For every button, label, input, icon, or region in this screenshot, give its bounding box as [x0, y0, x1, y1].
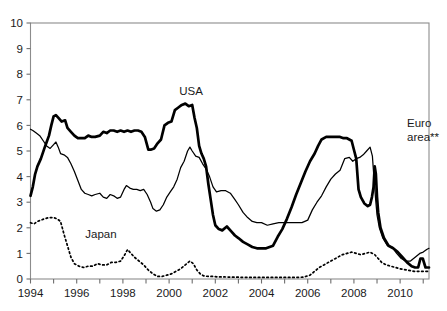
- y-axis-tick-label: 2: [17, 222, 23, 234]
- usa-label: USA: [179, 85, 203, 97]
- y-axis-tick-label: 9: [17, 43, 23, 55]
- y-axis-tick-label: 3: [17, 196, 23, 208]
- euro-area-label-line2: area**: [407, 131, 439, 143]
- japan-label: Japan: [85, 228, 116, 240]
- y-axis-tick-label: 6: [17, 120, 23, 132]
- x-axis-tick-label: 2000: [156, 287, 182, 299]
- x-axis-tick-label: 2008: [341, 287, 367, 299]
- y-axis-tick-label: 10: [10, 17, 23, 29]
- x-axis-tick-label: 2004: [249, 287, 275, 299]
- y-axis-tick-label: 4: [17, 171, 24, 183]
- y-axis-tick-label: 8: [17, 68, 23, 80]
- y-axis-tick-label: 7: [17, 94, 23, 106]
- y-axis-tick-label: 5: [17, 145, 23, 157]
- x-axis-tick-label: 1996: [64, 287, 90, 299]
- y-axis-tick-label: 1: [17, 248, 23, 260]
- chart-background: [0, 0, 447, 311]
- x-axis-tick-label: 1998: [110, 287, 136, 299]
- interest-rate-line-chart: 012345678910 199419961998200020022004200…: [0, 0, 447, 311]
- x-axis-tick-label: 2010: [387, 287, 413, 299]
- x-axis-tick-label: 2006: [295, 287, 321, 299]
- chart-page: 012345678910 199419961998200020022004200…: [0, 0, 447, 311]
- x-axis-tick-label: 1994: [18, 287, 44, 299]
- x-axis-tick-labels: 199419961998200020022004200620082010: [18, 287, 413, 299]
- euro-area-label: Euro: [407, 117, 431, 129]
- y-axis-tick-label: 0: [17, 273, 23, 285]
- x-axis-tick-label: 2002: [203, 287, 229, 299]
